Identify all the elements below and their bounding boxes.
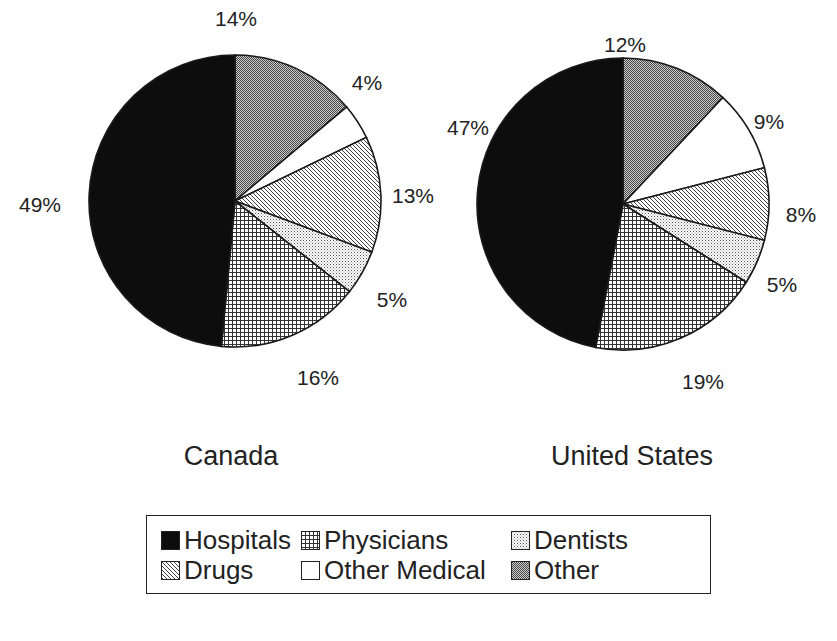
slice-percent-label: 14%	[215, 7, 257, 30]
legend-item-physicians: Physicians	[301, 525, 511, 555]
hospitals-swatch-icon	[161, 531, 180, 550]
legend-item-hospitals: Hospitals	[161, 525, 301, 555]
slice-percent-label: 49%	[19, 193, 61, 216]
slice-percent-label: 47%	[447, 116, 489, 139]
legend-item-drugs: Drugs	[161, 555, 301, 585]
pie-slice-hospitals	[477, 58, 623, 347]
slice-percent-label: 4%	[352, 71, 382, 94]
dentists-swatch-icon	[511, 531, 530, 550]
legend-label: Other	[534, 555, 599, 585]
legend-label: Other Medical	[324, 555, 486, 585]
pie-canada: 14%4%13%5%16%49%	[19, 7, 434, 389]
legend-item-dentists: Dentists	[511, 525, 701, 555]
slice-percent-label: 12%	[604, 33, 646, 56]
legend-label: Dentists	[534, 525, 628, 555]
other-swatch-icon	[511, 561, 530, 580]
pie-united-states: 12%9%8%5%19%47%	[447, 33, 816, 393]
other-medical-swatch-icon	[301, 561, 320, 580]
drugs-swatch-icon	[161, 561, 180, 580]
slice-percent-label: 9%	[754, 110, 784, 133]
physicians-swatch-icon	[301, 531, 320, 550]
legend-item-other-medical: Other Medical	[301, 555, 511, 585]
legend-label: Drugs	[184, 555, 253, 585]
pie-slice-hospitals	[89, 55, 235, 346]
legend-label: Hospitals	[184, 525, 291, 555]
slice-percent-label: 5%	[767, 273, 797, 296]
pie-title-canada: Canada	[184, 441, 280, 471]
legend-label: Physicians	[324, 525, 448, 555]
legend-item-other: Other	[511, 555, 701, 585]
legend: Hospitals Physicians Dentists Drugs Othe…	[146, 515, 711, 594]
slice-percent-label: 19%	[682, 370, 724, 393]
pie-title-united-states: United States	[551, 441, 713, 471]
slice-percent-label: 13%	[392, 184, 434, 207]
slice-percent-label: 8%	[786, 203, 816, 226]
slice-percent-label: 16%	[297, 366, 339, 389]
slice-percent-label: 5%	[377, 288, 407, 311]
